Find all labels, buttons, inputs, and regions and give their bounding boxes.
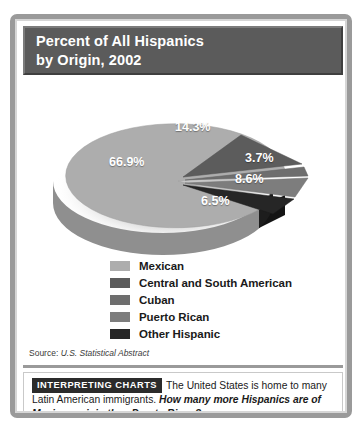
source-prefix: Source: [29,348,61,358]
pie-label-mexican: 66.9% [109,155,144,169]
pie-label-puerto-rican: 8.6% [235,172,264,186]
status-badge: INTERPRETING CHARTS [32,378,162,393]
source-divider [23,365,343,368]
legend-item-central-south-american: Central and South American [23,274,343,291]
legend-swatch-icon [110,295,130,305]
pie-label-cuban: 3.7% [245,151,274,165]
pie-label-other-hispanic: 6.5% [201,194,230,208]
source-title: U.S. Statistical Abstract [61,348,150,358]
legend-label: Central and South American [139,277,292,289]
caption-text: INTERPRETING CHARTSThe United States is … [32,378,334,413]
pie-chart: 66.9% 14.3% 3.7% 8.6% 6.5% [23,77,343,255]
legend-label: Puerto Rican [139,311,209,323]
figure-frame: Percent of All Hispanics by Origin, 2002 [10,14,352,418]
legend-label: Cuban [139,294,175,306]
legend-item-other-hispanic: Other Hispanic [23,325,343,342]
chart-plot-area: 66.9% 14.3% 3.7% 8.6% 6.5% [23,77,343,255]
legend-label: Other Hispanic [139,328,220,340]
legend-label: Mexican [139,260,184,272]
legend-item-puerto-rican: Puerto Rican [23,308,343,325]
pie-chart-svg [23,77,343,255]
interpreting-charts-box: INTERPRETING CHARTSThe United States is … [23,372,343,413]
legend-item-cuban: Cuban [23,291,343,308]
legend-item-mexican: Mexican [23,257,343,274]
legend-swatch-icon [110,261,130,271]
source-note: Source: U.S. Statistical Abstract [29,348,149,358]
chart-title-bar: Percent of All Hispanics by Origin, 2002 [23,26,343,75]
pie-label-central-south-american: 14.3% [175,120,210,134]
page-title: Percent of All Hispanics by Origin, 2002 [36,32,204,70]
chart-legend: Mexican Central and South American Cuban… [23,257,343,343]
legend-swatch-icon [110,278,130,288]
figure-inner-border: Percent of All Hispanics by Origin, 2002 [15,19,347,413]
legend-swatch-icon [110,329,130,339]
legend-swatch-icon [110,312,130,322]
